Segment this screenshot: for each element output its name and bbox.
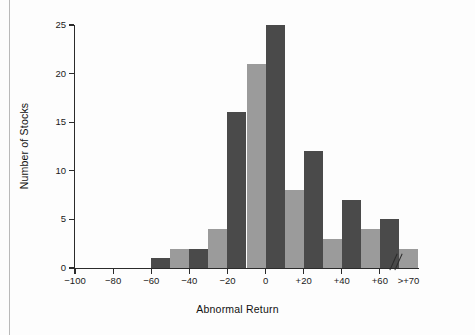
- histogram-bar: [189, 249, 208, 268]
- y-tick-label: 10: [40, 165, 66, 176]
- x-axis-line: [74, 268, 419, 269]
- x-tick-mark: [341, 269, 342, 274]
- x-tick-mark: [265, 269, 266, 274]
- x-tick-mark: [227, 269, 228, 274]
- y-tick-label: 5: [40, 213, 66, 224]
- histogram-bar: [170, 249, 189, 268]
- histogram-bar: [304, 151, 323, 268]
- x-tick-mark: [379, 269, 380, 274]
- histogram-bar: [361, 229, 380, 268]
- x-tick-mark: [151, 269, 152, 274]
- histogram-bar: [247, 64, 266, 268]
- y-tick-mark: [69, 122, 74, 123]
- y-tick-label: 20: [40, 68, 66, 79]
- y-tick-mark: [69, 219, 74, 220]
- histogram-bar: [266, 25, 285, 268]
- x-tick-label: >+70: [384, 275, 432, 286]
- histogram-bar: [227, 112, 246, 268]
- y-tick-mark: [69, 267, 74, 268]
- histogram-bar: [342, 200, 361, 268]
- y-tick-label: 15: [40, 116, 66, 127]
- x-tick-mark: [189, 269, 190, 274]
- histogram-bar: [208, 229, 227, 268]
- page-background: 0510152025 −100−80−60−40−200+20+40+60>+7…: [0, 0, 475, 335]
- x-tick-mark: [74, 269, 75, 274]
- histogram-chart: 0510152025 −100−80−60−40−200+20+40+60>+7…: [0, 0, 475, 335]
- y-tick-mark: [69, 24, 74, 25]
- histogram-bar: [285, 190, 304, 268]
- y-tick-mark: [69, 170, 74, 171]
- plot-area: [75, 25, 418, 268]
- x-axis-title: Abnormal Return: [0, 303, 475, 315]
- y-tick-mark: [69, 73, 74, 74]
- x-tick-mark: [113, 269, 114, 274]
- y-axis-title: Number of Stocks: [18, 76, 30, 216]
- axis-break-icon: [389, 252, 407, 272]
- histogram-bar: [323, 239, 342, 268]
- y-tick-label: 25: [40, 19, 66, 30]
- y-tick-label: 0: [40, 262, 66, 273]
- histogram-bar: [151, 258, 170, 268]
- x-tick-mark: [303, 269, 304, 274]
